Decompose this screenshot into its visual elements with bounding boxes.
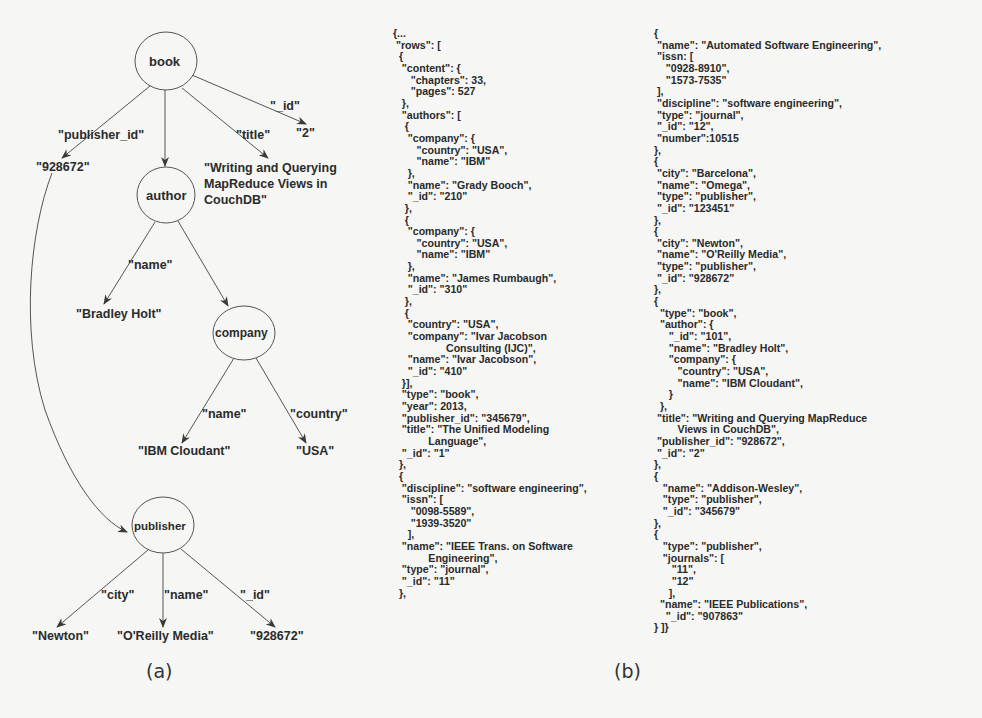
edge-label-company-country: "country" <box>290 407 348 422</box>
json-listing-column-2: { "name": "Automated Software Engineerin… <box>654 28 881 634</box>
value-publisher-city: "Newton" <box>32 629 89 644</box>
edge-label-author-name: "name" <box>128 258 173 273</box>
value-publisher-id-value: "928672" <box>250 629 304 644</box>
edge-company-country <box>256 358 306 443</box>
node-label-author: author <box>146 188 186 203</box>
caption-b: (b) <box>614 660 641 682</box>
edge-label-publisher-id: "publisher_id" <box>58 128 144 143</box>
node-label-company: company <box>215 326 268 341</box>
caption-a: (a) <box>146 660 172 682</box>
edge-label-id: "_id" <box>270 99 300 114</box>
edge-company-name <box>182 358 234 443</box>
value-publisher-id: "928672" <box>36 160 90 175</box>
value-book-id: "2" <box>296 126 315 141</box>
node-label-book: book <box>149 54 180 69</box>
edge-book-publisher-id <box>62 86 150 158</box>
value-publisher-name: "O'Reilly Media" <box>117 629 214 644</box>
edge-label-title: "title" <box>236 128 270 143</box>
value-title: "Writing and Querying MapReduce Views in… <box>204 160 337 208</box>
edge-label-publisher-name: "name" <box>164 588 209 603</box>
value-company-name: "IBM Cloudant" <box>138 444 230 459</box>
edge-reference-publisher <box>30 173 127 532</box>
node-label-publisher: publisher <box>134 519 186 534</box>
value-author-name: "Bradley Holt" <box>76 307 161 322</box>
value-company-country: "USA" <box>296 444 334 459</box>
edge-author-company <box>178 221 228 306</box>
edge-label-publisher-city: "city" <box>101 588 134 603</box>
edge-label-company-name: "name" <box>202 407 247 422</box>
json-listing-column-1: {... "rows": [ { "content": { "chapters"… <box>393 28 587 599</box>
edge-label-publisher-id-edge: "_id" <box>240 588 270 603</box>
edge-book-title <box>182 88 268 158</box>
